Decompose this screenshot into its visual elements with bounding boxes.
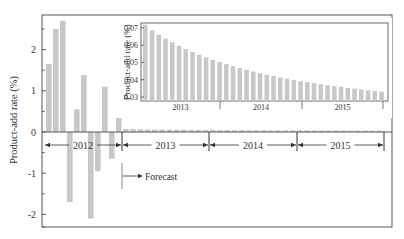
inset-bar xyxy=(325,85,330,101)
main-y-tick-label: 2 xyxy=(31,44,36,55)
inset-bar xyxy=(292,80,297,101)
inset-bar xyxy=(157,35,162,101)
inset-bar xyxy=(251,72,256,101)
product-add-rate-chart: -2-10122012201320142015Forecast 0.030.04… xyxy=(0,0,404,239)
inset-year-label-2014: 2014 xyxy=(253,103,269,112)
bracket-arrowhead xyxy=(210,143,215,147)
period-label-2014: 2014 xyxy=(243,140,263,151)
bracket-arrowhead xyxy=(203,143,208,147)
bracket-arrowhead xyxy=(116,143,121,147)
inset-bar xyxy=(278,77,283,101)
inset-bar xyxy=(298,81,303,101)
inset-bar xyxy=(184,49,189,101)
inset-bar xyxy=(224,64,229,101)
main-bar-2012 xyxy=(95,132,101,171)
inset-bar xyxy=(244,70,249,101)
inset-bar xyxy=(265,75,270,101)
bracket-arrowhead xyxy=(123,143,128,147)
inset-bar xyxy=(352,89,357,101)
inset-bar xyxy=(190,52,195,101)
bracket-arrowhead xyxy=(45,143,50,147)
main-bar-2012 xyxy=(46,64,52,132)
main-bar-2012 xyxy=(53,29,59,132)
main-y-tick-label: 0 xyxy=(31,127,36,138)
inset-bar xyxy=(163,39,168,101)
main-bar-2012 xyxy=(60,21,66,132)
inset-bar xyxy=(346,88,351,101)
chart-canvas: -2-10122012201320142015Forecast 0.030.04… xyxy=(0,0,404,239)
main-y-tick-label: -1 xyxy=(28,168,36,179)
inset-bar xyxy=(177,46,182,101)
main-bar-2012 xyxy=(81,75,87,132)
inset-bar xyxy=(339,87,344,101)
period-label-2015: 2015 xyxy=(331,140,351,151)
inset-bar xyxy=(271,76,276,101)
main-bar-2012 xyxy=(67,132,73,202)
inset-plot: 0.030.040.050.060.07201320142015 xyxy=(116,18,392,118)
period-label-2012: 2012 xyxy=(73,140,93,151)
inset-bar xyxy=(379,92,384,101)
main-bar-2012 xyxy=(102,87,108,132)
inset-bar xyxy=(359,90,364,101)
bracket-arrowhead xyxy=(298,143,303,147)
inset-bar xyxy=(285,79,290,101)
inset-y-axis-title: Product-add rate (%) xyxy=(122,24,132,99)
inset-bar xyxy=(170,42,175,101)
inset-bar xyxy=(150,30,155,101)
forecast-arrowhead xyxy=(138,174,143,178)
inset-bar xyxy=(204,57,209,101)
inset-year-label-2015: 2015 xyxy=(335,103,351,112)
inset-bar xyxy=(366,90,371,101)
main-y-tick-label: -2 xyxy=(28,209,36,220)
inset-bar xyxy=(305,82,310,101)
inset-bar xyxy=(197,55,202,101)
inset-bar xyxy=(238,68,243,101)
inset-bar xyxy=(217,62,222,101)
main-bar-2012 xyxy=(74,109,80,132)
inset-bar xyxy=(319,84,324,101)
bracket-arrowhead xyxy=(291,143,296,147)
inset-bar xyxy=(312,83,317,101)
inset-bar xyxy=(332,86,337,101)
forecast-label: Forecast xyxy=(145,172,178,182)
inset-bar xyxy=(258,73,263,101)
bracket-arrowhead xyxy=(378,143,383,147)
period-label-2013: 2013 xyxy=(156,140,176,151)
main-y-axis-title: Product-add rate (%) xyxy=(8,75,20,164)
inset-bar xyxy=(231,66,236,101)
inset-bar xyxy=(211,60,216,101)
main-y-tick-label: 1 xyxy=(31,85,36,96)
inset-bar xyxy=(373,91,378,101)
inset-year-label-2013: 2013 xyxy=(173,103,189,112)
